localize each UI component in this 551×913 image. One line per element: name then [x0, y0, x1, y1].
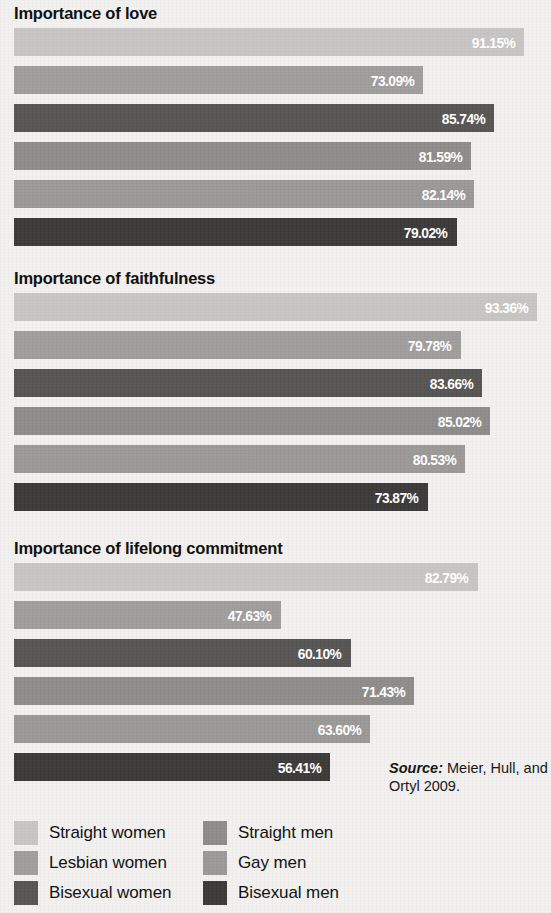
- bar-bisexual-women: 60.10%: [14, 639, 351, 667]
- bar-value-label: 81.59%: [418, 149, 461, 164]
- bar-row: 47.63%: [0, 601, 551, 629]
- bar-value-label: 79.02%: [404, 225, 447, 240]
- bar-value-label: 56.41%: [277, 760, 320, 775]
- bar-gay-men: 82.14%: [14, 180, 474, 208]
- bar-value-label: 83.66%: [430, 376, 473, 391]
- bar-bisexual-women: 85.74%: [14, 104, 494, 132]
- bar-row: 79.78%: [0, 331, 551, 359]
- bar-gay-men: 80.53%: [14, 445, 465, 473]
- bar-row: 73.87%: [0, 483, 551, 511]
- bar-value-label: 85.74%: [442, 111, 485, 126]
- bar-straight-men: 81.59%: [14, 142, 471, 170]
- chart-page: Importance of love 91.15%73.09%85.74%81.…: [0, 0, 551, 913]
- bar-straight-women: 91.15%: [14, 28, 524, 56]
- bar-group: 93.36%79.78%83.66%85.02%80.53%73.87%: [0, 293, 551, 521]
- bar-value-label: 93.36%: [484, 300, 527, 315]
- bar-straight-women: 82.79%: [14, 563, 478, 591]
- legend-label: Bisexual men: [238, 883, 339, 903]
- bar-group: 82.79%47.63%60.10%71.43%63.60%56.41%: [0, 563, 551, 791]
- bar-row: 79.02%: [0, 218, 551, 246]
- panel-title: Importance of love: [14, 4, 157, 23]
- bar-bisexual-men: 56.41%: [14, 753, 330, 781]
- legend-item[interactable]: Straight women: [14, 818, 171, 848]
- bar-row: 60.10%: [0, 639, 551, 667]
- legend-item[interactable]: Straight men: [203, 818, 339, 848]
- source-label: Source:: [389, 760, 443, 776]
- bar-gay-men: 63.60%: [14, 715, 370, 743]
- bar-lesbian-women: 73.09%: [14, 66, 423, 94]
- legend-label: Straight men: [238, 823, 333, 843]
- bar-group: 91.15%73.09%85.74%81.59%82.14%79.02%: [0, 28, 551, 256]
- bar-value-label: 80.53%: [412, 452, 455, 467]
- bar-row: 82.79%: [0, 563, 551, 591]
- legend-label: Straight women: [49, 823, 166, 843]
- bar-row: 71.43%: [0, 677, 551, 705]
- bar-value-label: 60.10%: [298, 646, 341, 661]
- legend-swatch-icon: [203, 881, 227, 905]
- legend-item[interactable]: Bisexual women: [14, 878, 171, 908]
- panel-title: Importance of lifelong commitment: [14, 539, 282, 558]
- bar-bisexual-women: 83.66%: [14, 369, 482, 397]
- bar-value-label: 79.78%: [408, 338, 451, 353]
- bar-bisexual-men: 79.02%: [14, 218, 457, 246]
- legend-label: Bisexual women: [49, 883, 171, 903]
- bar-value-label: 73.09%: [371, 73, 414, 88]
- bar-straight-women: 93.36%: [14, 293, 537, 321]
- bar-row: 93.36%: [0, 293, 551, 321]
- source-note: Source: Meier, Hull, and Ortyl 2009.: [389, 760, 549, 795]
- chart-legend: Straight womenLesbian womenBisexual wome…: [0, 818, 551, 913]
- bar-row: 85.74%: [0, 104, 551, 132]
- legend-swatch-icon: [14, 821, 38, 845]
- bar-value-label: 63.60%: [318, 722, 361, 737]
- bar-value-label: 91.15%: [472, 35, 515, 50]
- bar-row: 91.15%: [0, 28, 551, 56]
- legend-swatch-icon: [14, 881, 38, 905]
- bar-value-label: 85.02%: [438, 414, 481, 429]
- bar-value-label: 47.63%: [228, 608, 271, 623]
- bar-value-label: 71.43%: [362, 684, 405, 699]
- bar-row: 73.09%: [0, 66, 551, 94]
- legend-column-men: Straight menGay menBisexual men: [203, 818, 339, 908]
- bar-value-label: 82.14%: [421, 187, 464, 202]
- bar-value-label: 73.87%: [375, 490, 418, 505]
- bar-row: 81.59%: [0, 142, 551, 170]
- bar-bisexual-men: 73.87%: [14, 483, 428, 511]
- legend-label: Gay men: [238, 853, 306, 873]
- legend-item[interactable]: Gay men: [203, 848, 339, 878]
- bar-row: 82.14%: [0, 180, 551, 208]
- bar-row: 83.66%: [0, 369, 551, 397]
- legend-label: Lesbian women: [49, 853, 167, 873]
- bar-lesbian-women: 79.78%: [14, 331, 461, 359]
- bar-lesbian-women: 47.63%: [14, 601, 281, 629]
- legend-item[interactable]: Lesbian women: [14, 848, 171, 878]
- bar-straight-men: 85.02%: [14, 407, 490, 435]
- legend-swatch-icon: [203, 821, 227, 845]
- legend-swatch-icon: [14, 851, 38, 875]
- legend-item[interactable]: Bisexual men: [203, 878, 339, 908]
- legend-swatch-icon: [203, 851, 227, 875]
- bar-value-label: 82.79%: [425, 570, 468, 585]
- legend-column-women: Straight womenLesbian womenBisexual wome…: [14, 818, 171, 908]
- bar-row: 63.60%: [0, 715, 551, 743]
- bar-row: 85.02%: [0, 407, 551, 435]
- bar-row: 80.53%: [0, 445, 551, 473]
- panel-title: Importance of faithfulness: [14, 269, 215, 288]
- bar-straight-men: 71.43%: [14, 677, 414, 705]
